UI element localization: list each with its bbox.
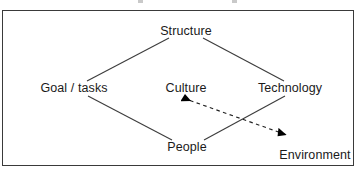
dashed-connector-line	[190, 101, 286, 135]
edge-goal-structure	[87, 38, 169, 81]
edge-goal-people	[88, 96, 172, 140]
edge-technology-people	[204, 96, 285, 140]
edge-structure-technology	[203, 38, 284, 81]
node-label-culture: Culture	[166, 81, 207, 95]
figure-canvas: Structure Goal / tasks Culture Technolog…	[0, 0, 360, 170]
node-label-people: People	[167, 140, 207, 154]
node-label-technology: Technology	[258, 81, 322, 95]
edge-culture-environment	[190, 101, 286, 135]
node-label-goal-tasks: Goal / tasks	[40, 81, 107, 95]
node-label-structure: Structure	[160, 24, 212, 38]
node-label-environment: Environment	[279, 148, 350, 162]
